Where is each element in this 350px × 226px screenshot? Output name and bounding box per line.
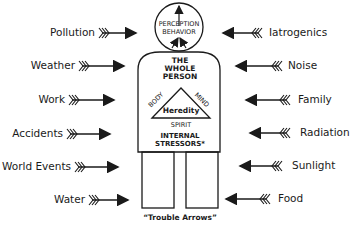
right-arrows — [223, 33, 286, 199]
trouble-arrows-caption: “Trouble Arrows” — [140, 214, 220, 222]
stressor-label-noise: Noise — [288, 59, 317, 71]
head-label: PERCEPTION BEHAVIOR — [155, 20, 203, 36]
spirit-label: SPIRIT — [160, 121, 202, 129]
stressor-label-sunlight: Sunlight — [292, 159, 335, 171]
stressor-label-work: Work — [38, 93, 65, 105]
stressor-label-world-events: World Events — [2, 160, 71, 172]
stressor-label-food: Food — [278, 192, 303, 204]
stressor-label-pollution: Pollution — [50, 26, 95, 38]
stressor-label-accidents: Accidents — [12, 127, 63, 139]
stressor-label-family: Family — [298, 93, 332, 105]
stressor-label-radiation: Radiation — [300, 126, 350, 138]
stressor-label-weather: Weather — [31, 59, 75, 71]
stressor-label-iatrogenics: Iatrogenics — [269, 26, 327, 38]
left-arrows — [70, 33, 136, 200]
body-title: THE WHOLE PERSON — [150, 57, 210, 81]
internal-stressors-label: INTERNAL STRESSORS* — [145, 132, 215, 148]
heredity-label: Heredity — [160, 107, 202, 115]
stressor-label-water: Water — [54, 193, 85, 205]
